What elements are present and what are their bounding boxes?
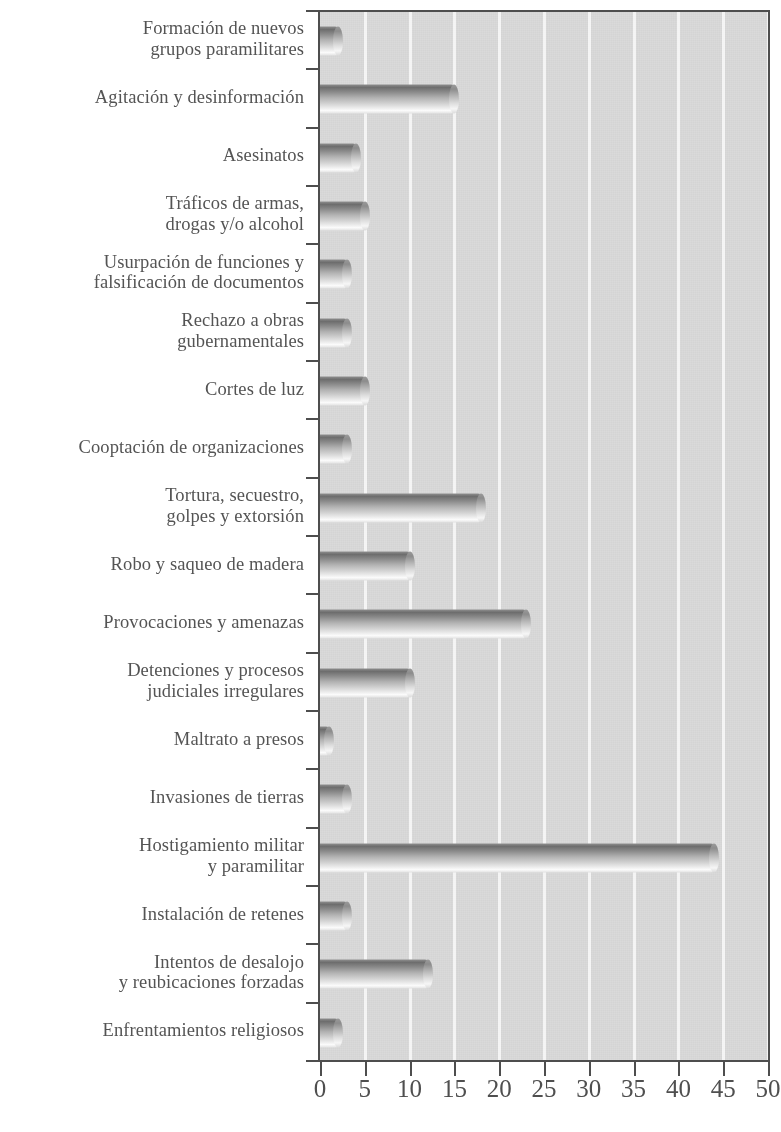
- bar-slot: [320, 770, 768, 828]
- category-label: Hostigamiento militar y paramilitar: [0, 827, 312, 885]
- x-tick-label: 40: [666, 1076, 691, 1101]
- x-tick: [320, 1062, 322, 1076]
- x-tick-label: 25: [532, 1076, 557, 1101]
- bar-end-cap: [333, 1018, 343, 1047]
- bar-slot: [320, 712, 768, 770]
- x-tick-label: 20: [487, 1076, 512, 1101]
- bar-slot: [320, 304, 768, 362]
- bar: [320, 785, 347, 814]
- category-label: Intentos de desalojo y reubicaciones for…: [0, 943, 312, 1001]
- x-axis-tick-labels: 05101520253035404550: [320, 1076, 780, 1116]
- bar-end-cap: [351, 143, 361, 172]
- bar-end-cap: [405, 668, 415, 697]
- bar: [320, 143, 356, 172]
- bar-end-cap: [360, 377, 370, 406]
- bar-end-cap: [405, 552, 415, 581]
- x-tick-label: 10: [397, 1076, 422, 1101]
- bar: [320, 27, 338, 56]
- bar-slot: [320, 479, 768, 537]
- bar-end-cap: [342, 318, 352, 347]
- bar: [320, 843, 714, 872]
- bar-end-cap: [342, 435, 352, 464]
- x-tick-label: 0: [314, 1076, 327, 1101]
- bar-end-cap: [342, 785, 352, 814]
- category-label: Invasiones de tierras: [0, 768, 312, 826]
- bar-end-cap: [324, 727, 334, 756]
- category-label: Tortura, secuestro, golpes y extorsión: [0, 477, 312, 535]
- bar-slot: [320, 129, 768, 187]
- category-label: Rechazo a obras gubernamentales: [0, 302, 312, 360]
- x-tick: [365, 1062, 367, 1076]
- bar-slot: [320, 362, 768, 420]
- x-tick: [634, 1062, 636, 1076]
- bar-end-cap: [521, 610, 531, 639]
- bar-slot: [320, 70, 768, 128]
- bar: [320, 902, 347, 931]
- x-tick: [544, 1062, 546, 1076]
- bar: [320, 435, 347, 464]
- bar-slot: [320, 887, 768, 945]
- bar-end-cap: [449, 85, 459, 114]
- bar: [320, 668, 410, 697]
- bar-slot: [320, 12, 768, 70]
- bar-slot: [320, 187, 768, 245]
- x-tick: [499, 1062, 501, 1076]
- bar: [320, 493, 481, 522]
- category-label: Cooptación de organizaciones: [0, 418, 312, 476]
- x-tick: [410, 1062, 412, 1076]
- x-tick-label: 30: [576, 1076, 601, 1101]
- category-label: Tráficos de armas, drogas y/o alcohol: [0, 185, 312, 243]
- bar-slot: [320, 1004, 768, 1062]
- bar: [320, 727, 329, 756]
- bar: [320, 610, 526, 639]
- bar: [320, 552, 410, 581]
- x-tick-label: 45: [711, 1076, 736, 1101]
- bar-end-cap: [423, 960, 433, 989]
- x-tick: [589, 1062, 591, 1076]
- x-tick-label: 15: [442, 1076, 467, 1101]
- bar-slot: [320, 245, 768, 303]
- category-label: Formación de nuevos grupos paramilitares: [0, 10, 312, 68]
- bar: [320, 960, 428, 989]
- x-tick: [768, 1062, 770, 1076]
- bar-end-cap: [709, 843, 719, 872]
- bar: [320, 318, 347, 347]
- bar: [320, 377, 365, 406]
- x-tick-label: 35: [621, 1076, 646, 1101]
- category-label: Instalación de retenes: [0, 885, 312, 943]
- category-label: Asesinatos: [0, 127, 312, 185]
- category-label: Detenciones y procesos judiciales irregu…: [0, 652, 312, 710]
- bar-slot: [320, 829, 768, 887]
- x-tick: [678, 1062, 680, 1076]
- plot-area: [320, 10, 770, 1062]
- bar: [320, 260, 347, 289]
- bar-slot: [320, 654, 768, 712]
- x-tick: [723, 1062, 725, 1076]
- bar-end-cap: [342, 260, 352, 289]
- category-label: Enfrentamientos religiosos: [0, 1002, 312, 1060]
- category-label: Maltrato a presos: [0, 710, 312, 768]
- category-label: Agitación y desinformación: [0, 68, 312, 126]
- x-tick-label: 5: [359, 1076, 372, 1101]
- bar-slot: [320, 420, 768, 478]
- bar-end-cap: [342, 902, 352, 931]
- category-label: Robo y saqueo de madera: [0, 535, 312, 593]
- category-label: Usurpación de funciones y falsificación …: [0, 243, 312, 301]
- category-label: Cortes de luz: [0, 360, 312, 418]
- category-label: Provocaciones y amenazas: [0, 593, 312, 651]
- bar: [320, 85, 454, 114]
- bar-end-cap: [333, 27, 343, 56]
- bar-slot: [320, 595, 768, 653]
- x-tick-label: 50: [756, 1076, 781, 1101]
- x-axis-tick-marks: [320, 1062, 770, 1076]
- category-axis-labels: Formación de nuevos grupos paramilitares…: [0, 10, 312, 1060]
- bars-container: [320, 12, 768, 1062]
- bar: [320, 1018, 338, 1047]
- x-tick: [454, 1062, 456, 1076]
- bar: [320, 202, 365, 231]
- bar-slot: [320, 537, 768, 595]
- bar-slot: [320, 945, 768, 1003]
- bar-end-cap: [476, 493, 486, 522]
- bar-end-cap: [360, 202, 370, 231]
